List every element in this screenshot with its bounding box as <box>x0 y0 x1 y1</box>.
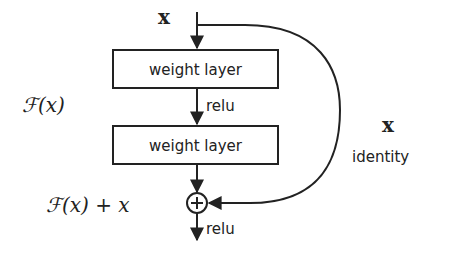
sum-label: ℱ(x) + x <box>46 193 130 217</box>
add-operator-icon <box>187 193 207 213</box>
shortcut-identity-label: identity <box>352 148 409 166</box>
weight-layer-1-label: weight layer <box>149 61 243 79</box>
shortcut-var-label: x <box>382 113 395 137</box>
input-label: x <box>158 5 171 29</box>
relu-label-2: relu <box>206 220 235 238</box>
weight-layer-2-label: weight layer <box>149 137 243 155</box>
residual-function-label: ℱ(x) <box>22 93 65 117</box>
relu-label-1: relu <box>206 97 235 115</box>
residual-block-diagram: x weight layer relu weight layer relu ℱ(… <box>0 0 449 254</box>
